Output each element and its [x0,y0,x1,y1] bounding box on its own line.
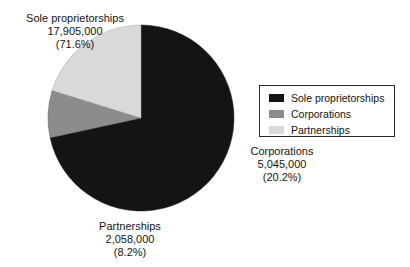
callout-corporations: Corporations 5,045,000 (20.2%) [236,145,328,185]
callout-corporations-value: 5,045,000 [236,158,328,171]
callout-partnerships-percent: (8.2%) [75,246,185,259]
legend-item-partnerships: Partnerships [260,123,394,137]
legend-swatch-gray-icon [269,110,284,118]
legend-item-sole-proprietorships: Sole proprietorships [260,91,394,105]
callout-sole-name: Sole proprietorships [10,12,140,25]
pie-chart-figure: Sole proprietorships 17,905,000 (71.6%) … [0,0,410,267]
legend-swatch-light-gray-icon [269,126,284,134]
callout-corporations-name: Corporations [236,145,328,158]
callout-sole-proprietorships: Sole proprietorships 17,905,000 (71.6%) [10,12,140,52]
legend-swatch-black-icon [269,94,284,102]
callout-corporations-percent: (20.2%) [236,171,328,184]
callout-sole-percent: (71.6%) [10,38,140,51]
legend-label-corporations: Corporations [291,108,351,120]
chart-legend: Sole proprietorships Corporations Partne… [259,85,395,137]
callout-partnerships: Partnerships 2,058,000 (8.2%) [75,220,185,260]
callout-partnerships-value: 2,058,000 [75,233,185,246]
callout-partnerships-name: Partnerships [75,220,185,233]
legend-label-partnerships: Partnerships [291,124,350,136]
legend-item-corporations: Corporations [260,107,394,121]
legend-label-sole-proprietorships: Sole proprietorships [291,92,384,104]
callout-sole-value: 17,905,000 [10,25,140,38]
